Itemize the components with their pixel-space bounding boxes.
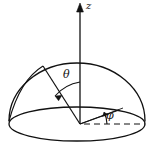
polar-angle-theta-label: θ (63, 69, 70, 80)
theta-arc-path (55, 82, 80, 96)
theta-arc-arrowhead-icon (55, 95, 62, 101)
azimuth-chord-line (80, 108, 123, 124)
watermark-text (38, 146, 84, 151)
z-axis-arrowhead-icon (77, 3, 84, 12)
azimuthal-angle-phi-label: φ (106, 110, 114, 121)
z-axis-label: z (86, 1, 91, 11)
hemisphere-diagram-svg (0, 0, 153, 155)
figure-canvas: z θ φ (0, 0, 153, 155)
radial-vector-line (43, 66, 80, 124)
